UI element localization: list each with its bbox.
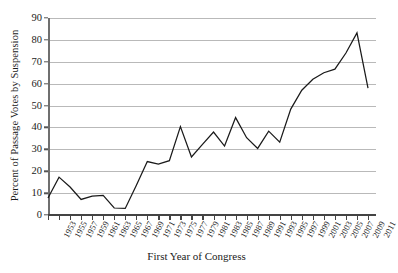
y-tick-label: 20 (14, 166, 42, 177)
y-tick-label: 60 (14, 78, 42, 89)
x-axis-title: First Year of Congress (0, 250, 393, 262)
series-polyline (48, 33, 368, 209)
y-tick-label: 40 (14, 122, 42, 133)
plot-area (48, 18, 376, 215)
y-tick-label: 30 (14, 144, 42, 155)
y-tick-label: 70 (14, 57, 42, 68)
line-series (48, 18, 376, 215)
y-tick-label: 80 (14, 35, 42, 46)
y-tick-label: 0 (14, 210, 42, 221)
y-tick-label: 90 (14, 13, 42, 24)
y-tick-label: 10 (14, 188, 42, 199)
x-tick-mark (48, 216, 49, 220)
x-tick-mark (59, 216, 60, 220)
y-tick-label: 50 (14, 100, 42, 111)
y-axis-title: Percent of Passage Votes by Suspension (9, 16, 20, 216)
